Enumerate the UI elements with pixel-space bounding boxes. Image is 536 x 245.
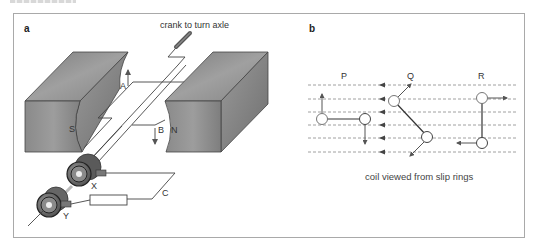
- resistor: [90, 195, 127, 205]
- force-arrow-diagonal-up-icon: [398, 84, 411, 97]
- slip-ring-y: Y: [28, 186, 72, 226]
- coil-position-r: [457, 93, 507, 149]
- coil-position-p: [317, 94, 371, 144]
- panel-b: b P Q R: [308, 23, 518, 182]
- side-a-label: A: [120, 81, 126, 91]
- side-b-label: B: [158, 125, 164, 135]
- figure-diagram: a crank to turn axle S: [0, 0, 536, 245]
- slip-ring-x-label: X: [91, 181, 97, 191]
- position-p-label: P: [341, 71, 347, 81]
- slip-ring-y-label: Y: [63, 211, 69, 221]
- magnet-south: S: [25, 52, 128, 152]
- pole-s-label: S: [69, 124, 75, 134]
- force-arrow-diagonal-down-icon: [410, 142, 424, 156]
- pole-n-label: N: [171, 125, 178, 135]
- panel-a-letter: a: [24, 23, 30, 34]
- panel-b-caption: coil viewed from slip rings: [365, 171, 473, 182]
- position-r-label: R: [478, 71, 485, 81]
- field-direction-arrows: [379, 83, 385, 155]
- circuit-c-label: C: [162, 188, 169, 198]
- crank-label: crank to turn axle: [160, 20, 229, 30]
- brush-x: [96, 170, 106, 176]
- coil-position-q: [389, 84, 433, 156]
- brush-y: [61, 201, 71, 207]
- magnet-north: N: [165, 52, 268, 152]
- panel-a: a crank to turn axle S: [24, 20, 268, 226]
- position-q-label: Q: [407, 71, 414, 81]
- panel-b-letter: b: [309, 23, 315, 34]
